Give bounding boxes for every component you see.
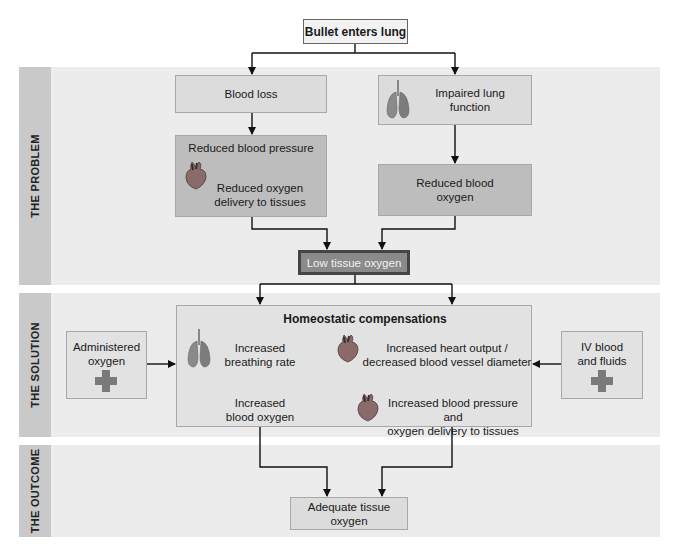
increased-blood-pressure-label: Increased blood pressure and oxygen deli… (378, 396, 528, 438)
reduced-oxygen-delivery-label: Reduced oxygen delivery to tissues (195, 181, 325, 209)
increased-blood-oxygen-label: Increased blood oxygen (215, 396, 305, 424)
heart-icon (336, 333, 360, 363)
adequate-tissue-oxygen-box: Adequate tissue oxygen (290, 497, 408, 530)
lungs-icon (385, 78, 411, 122)
blood-loss-box: Blood loss (175, 75, 327, 113)
lungs-icon (186, 327, 212, 371)
medical-cross-icon (95, 370, 117, 392)
solution-band-label: THE SOLUTION (19, 293, 51, 437)
problem-band-label: THE PROBLEM (19, 67, 51, 285)
homeostatic-title: Homeostatic compensations (280, 312, 450, 326)
heart-icon (356, 392, 380, 422)
outcome-band-label: THE OUTCOME (19, 445, 51, 537)
bullet-enters-lung-box: Bullet enters lung (303, 19, 408, 44)
low-tissue-oxygen-box: Low tissue oxygen (298, 250, 410, 275)
reduced-blood-pressure-label: Reduced blood pressure (175, 141, 327, 155)
reduced-blood-oxygen-box: Reduced blood oxygen (378, 164, 532, 216)
heart-icon (184, 160, 208, 190)
increased-heart-output-label: Increased heart output / decreased blood… (362, 341, 532, 369)
medical-cross-icon (591, 370, 613, 392)
increased-breathing-rate-label: Increased breathing rate (215, 341, 305, 369)
